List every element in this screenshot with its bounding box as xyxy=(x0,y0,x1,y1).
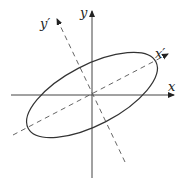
y-axis-label: y xyxy=(79,5,88,20)
x-prime-axis-label: x′ xyxy=(155,46,165,61)
x-axis-label: x xyxy=(168,79,176,94)
ellipse-diagram: x y x′ y′ xyxy=(0,0,185,185)
y-prime-axis-label: y′ xyxy=(39,16,50,31)
y-prime-axis xyxy=(57,19,125,162)
